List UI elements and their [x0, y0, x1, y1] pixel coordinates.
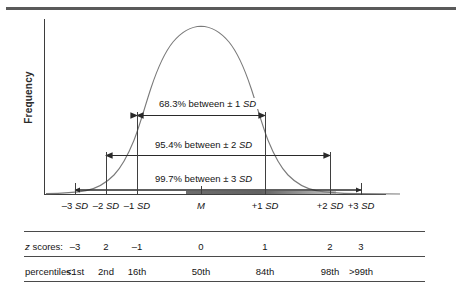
x-tick-label-minus1sd: –1 SD	[115, 200, 159, 211]
table-rule-top	[24, 231, 425, 232]
tick-line-plus2sd	[330, 152, 331, 195]
tick-line-plus3sd	[361, 183, 362, 195]
table-row: –1	[115, 241, 159, 252]
normal-distribution-figure: Frequency 68.3% between ± 1 SD 95.4% bet…	[0, 0, 462, 292]
annotation-68-text: 68.3% between ± 1	[159, 98, 243, 109]
tick-line-minus2sd	[106, 152, 107, 195]
x-tick-label-plus3sd: +3 SD	[339, 200, 383, 211]
tick-line-mean	[201, 186, 202, 195]
baseline-shading	[186, 191, 336, 195]
tick-unit-minus1: SD	[137, 200, 150, 211]
table-row: 16th	[115, 266, 159, 277]
tick-sign-plus1: +1	[252, 200, 265, 211]
tick-line-minus1sd	[137, 112, 138, 195]
table-row: 50th	[179, 266, 223, 277]
tick-line-plus1sd	[265, 112, 266, 195]
y-axis-line	[44, 19, 45, 194]
annotation-68-unit: SD	[243, 98, 256, 109]
table-row: 3	[339, 241, 383, 252]
tick-unit-mean: M	[197, 200, 205, 211]
annotation-997-text: 99.7% between ± 3	[155, 173, 239, 184]
tick-line-minus3sd	[75, 183, 76, 195]
tick-sign-minus1: –1	[124, 200, 137, 211]
tick-sign-plus3: +3	[348, 200, 361, 211]
table-row: 1	[243, 241, 287, 252]
annotation-95-text: 95.4% between ± 2	[155, 139, 239, 150]
tick-sign-plus2: +2	[317, 200, 330, 211]
table-row: 0	[179, 241, 223, 252]
table-row: >99th	[339, 266, 383, 277]
annotation-95-unit: SD	[239, 139, 252, 150]
tick-sign-minus2: –2	[93, 200, 106, 211]
tick-sign-minus3: –3	[62, 200, 75, 211]
x-tick-label-plus1sd: +1 SD	[243, 200, 287, 211]
annotation-95-percent: 95.4% between ± 2 SD	[152, 139, 255, 150]
table-rule-middle	[24, 256, 425, 257]
table-rule-bottom	[24, 281, 425, 282]
bell-curve-path	[46, 26, 400, 194]
top-divider-rule	[6, 7, 456, 10]
tick-unit-plus3: SD	[361, 200, 374, 211]
table-row: 84th	[243, 266, 287, 277]
tick-unit-plus1: SD	[265, 200, 278, 211]
annotation-997-percent: 99.7% between ± 3 SD	[152, 173, 255, 184]
annotation-997-unit: SD	[239, 173, 252, 184]
x-tick-label-mean: M	[179, 200, 223, 211]
y-axis-label: Frequency	[23, 53, 34, 143]
annotation-68-percent: 68.3% between ± 1 SD	[156, 98, 259, 109]
